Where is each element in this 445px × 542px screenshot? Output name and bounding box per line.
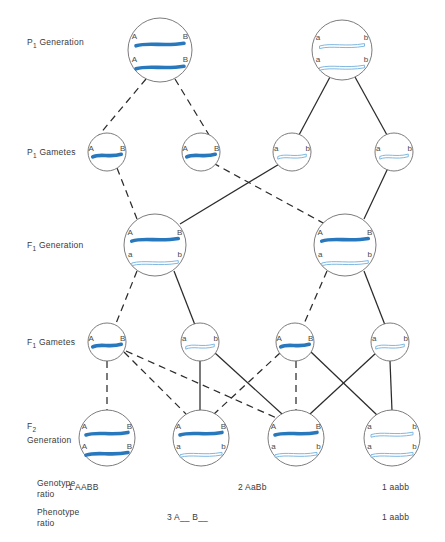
allele-label-right: b	[316, 442, 321, 451]
inheritance-link	[117, 168, 137, 219]
allele-label-right: B	[177, 228, 182, 237]
allele-label-left: A	[318, 228, 324, 237]
inheritance-link	[175, 79, 209, 135]
cell-p1-gamete-3[interactable]: ab	[273, 133, 311, 171]
allele-label-right: B	[308, 334, 313, 343]
allele-label-right: b	[364, 55, 369, 64]
inheritance-link	[180, 163, 281, 224]
allele-label-left: A	[89, 144, 95, 153]
cell-f1-gamete-3[interactable]: AB	[276, 323, 314, 361]
dominant-chromosome-icon	[93, 154, 122, 157]
allele-label-right: B	[214, 144, 219, 153]
allele-label-left: a	[367, 442, 372, 451]
allele-label-left: a	[367, 422, 372, 431]
row-label-f1-gametes: F1 Gametes	[27, 337, 75, 351]
inheritance-link	[364, 168, 388, 219]
cell-f2-1[interactable]: ABAB	[79, 410, 135, 466]
cell-outline	[79, 410, 135, 466]
cell-p1-gamete-2[interactable]: AB	[182, 133, 220, 171]
inheritance-link	[124, 352, 186, 414]
allele-label-right: b	[364, 33, 369, 42]
cell-f1-left[interactable]: ABab	[124, 214, 186, 276]
allele-label-left: A	[183, 144, 189, 153]
cell-f1-right[interactable]: ABab	[314, 214, 376, 276]
dominant-chromosome-icon	[86, 432, 128, 435]
allele-label-right: B	[221, 422, 226, 431]
cell-outline	[124, 214, 186, 276]
allele-label-left: A	[176, 422, 182, 431]
allele-label-left: a	[376, 144, 381, 153]
allele-label-left: a	[316, 55, 321, 64]
allele-label-right: b	[306, 144, 311, 153]
allele-label-right: b	[412, 442, 417, 451]
cell-outline	[173, 410, 229, 466]
allele-label-right: B	[127, 422, 132, 431]
inheritance-link	[126, 351, 281, 420]
allele-label-left: a	[182, 334, 187, 343]
cell-f2-4[interactable]: abab	[364, 410, 420, 466]
phenotype-ratio-1: 3 A__ B__	[167, 512, 208, 522]
row-label-f1-generation: F1 Generation	[27, 240, 84, 254]
cell-f2-3[interactable]: ABab	[268, 410, 324, 466]
allele-label-left: a	[316, 33, 321, 42]
allele-label-left: A	[132, 55, 138, 64]
cell-outline	[314, 214, 376, 276]
row-label-f2-generation: F2Generation	[27, 421, 72, 446]
inheritance-link	[390, 361, 392, 411]
phenotype-ratio-2: 1 aabb	[382, 512, 409, 522]
dominant-chromosome-icon	[132, 239, 179, 242]
cell-p1-gamete-4[interactable]: ab	[375, 133, 413, 171]
allele-label-left: A	[132, 32, 138, 41]
row-label-p1-generation: P1 Generation	[27, 37, 84, 51]
dominant-chromosome-icon	[275, 432, 317, 435]
cell-p1-parent-right[interactable]: abab	[312, 20, 372, 80]
inheritance-link	[364, 271, 385, 325]
allele-label-right: B	[316, 422, 321, 431]
cell-outline	[268, 410, 324, 466]
allele-label-right: b	[178, 250, 183, 259]
cell-outline	[128, 18, 192, 82]
allele-label-left: A	[128, 228, 134, 237]
phenotype-ratio-label: Phenotype ratio	[37, 507, 79, 528]
dominant-chromosome-icon	[187, 154, 216, 157]
allele-label-left: A	[82, 422, 88, 431]
allele-label-right: B	[183, 55, 188, 64]
inheritance-link	[299, 77, 330, 135]
allele-label-right: B	[120, 144, 125, 153]
allele-label-left: A	[89, 334, 95, 343]
genotype-ratio-3: 1 aabb	[382, 482, 409, 492]
allele-label-right: b	[368, 250, 373, 259]
inheritance-link	[303, 271, 327, 326]
allele-label-left: A	[271, 422, 277, 431]
allele-label-left: a	[128, 250, 133, 259]
dominant-chromosome-icon	[322, 239, 369, 242]
cell-f1-gamete-1[interactable]: AB	[88, 323, 126, 361]
allele-label-left: A	[277, 334, 283, 343]
allele-label-right: b	[412, 422, 417, 431]
allele-label-right: b	[214, 334, 219, 343]
allele-label-right: b	[408, 144, 413, 153]
dominant-chromosome-icon	[136, 66, 184, 69]
allele-label-right: b	[404, 334, 409, 343]
cell-circles-layer: ABABababABABababABabABabABabABabABABABab…	[79, 18, 420, 466]
cell-f1-gamete-2[interactable]: ab	[181, 323, 219, 361]
cell-f1-gamete-4[interactable]: ab	[371, 323, 409, 361]
allele-label-left: a	[274, 144, 279, 153]
dominant-chromosome-icon	[281, 344, 310, 347]
genetics-diagram-canvas: ABABababABABababABabABabABabABabABABABab…	[0, 0, 445, 542]
allele-label-left: a	[318, 250, 323, 259]
genotype-ratio-2: 2 AaBb	[238, 482, 267, 492]
allele-label-right: B	[183, 32, 188, 41]
allele-label-left: A	[82, 442, 88, 451]
cell-f2-2[interactable]: ABab	[173, 410, 229, 466]
allele-label-right: B	[127, 442, 132, 451]
genotype-ratio-1: 1 AABB	[68, 482, 99, 492]
inheritance-link	[174, 271, 195, 325]
inheritance-link	[99, 79, 146, 135]
allele-label-right: B	[120, 334, 125, 343]
cell-p1-parent-left[interactable]: ABAB	[128, 18, 192, 82]
dominant-chromosome-icon	[180, 432, 222, 435]
inheritance-link	[115, 271, 137, 326]
dominant-chromosome-icon	[93, 344, 122, 347]
cell-p1-gamete-1[interactable]: AB	[88, 133, 126, 171]
